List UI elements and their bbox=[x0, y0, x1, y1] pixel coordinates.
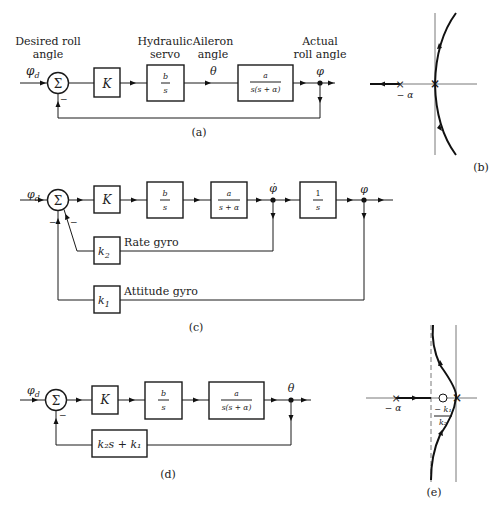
arrow-icon bbox=[271, 213, 276, 219]
caption-a: (a) bbox=[191, 126, 206, 139]
output-symbol: φ bbox=[316, 65, 324, 78]
caption-e: (e) bbox=[426, 486, 441, 499]
sum-sign: − bbox=[60, 94, 68, 104]
attitude-gyro-label: Attitude gyro bbox=[123, 285, 198, 298]
zero-label-num: − k₁ bbox=[434, 405, 451, 414]
svg-text:a: a bbox=[234, 389, 238, 398]
output-symbol: θ bbox=[288, 382, 295, 395]
arrow-icon bbox=[40, 81, 46, 86]
caption-b: (b) bbox=[473, 161, 489, 174]
input-symbol: φd bbox=[27, 188, 40, 203]
sum-sign: − bbox=[59, 410, 67, 420]
input-label-line2: angle bbox=[33, 48, 64, 61]
pole-label: − α bbox=[385, 403, 401, 413]
sum-sign-right: − bbox=[70, 217, 78, 227]
arrow-icon bbox=[38, 198, 44, 203]
svg-text:Σ: Σ bbox=[54, 194, 62, 208]
sum-symbol: Σ bbox=[54, 77, 62, 91]
zero-icon bbox=[439, 394, 447, 402]
servo-label-line1: Hydraulic bbox=[138, 35, 193, 48]
output-symbol: φ bbox=[360, 183, 368, 196]
svg-text:s: s bbox=[161, 403, 165, 412]
arrow-icon bbox=[256, 198, 262, 203]
svg-text:b: b bbox=[163, 72, 168, 81]
svg-text:a: a bbox=[263, 71, 267, 80]
arrow-icon bbox=[193, 398, 199, 403]
diagram-b-root-locus: × − α × (b) bbox=[370, 13, 489, 174]
servo-label-line2: servo bbox=[150, 48, 181, 61]
svg-text:Σ: Σ bbox=[52, 394, 60, 408]
rate-symbol: φ̇ bbox=[269, 182, 277, 195]
arrow-icon bbox=[412, 396, 418, 401]
svg-text:s(s + α): s(s + α) bbox=[222, 403, 252, 412]
arrow-icon bbox=[347, 198, 353, 203]
arrow-icon bbox=[285, 198, 291, 203]
arrow-icon bbox=[194, 198, 200, 203]
arrow-icon bbox=[318, 97, 323, 103]
diagram-d: φd Σ − K b s a s(s + α) θ k₂s + k₁ (d) bbox=[20, 382, 311, 481]
svg-text:s: s bbox=[163, 203, 167, 212]
svg-text:b: b bbox=[161, 389, 166, 398]
arrow-icon bbox=[77, 198, 83, 203]
arrow-icon bbox=[205, 81, 211, 86]
output-label-line2: roll angle bbox=[293, 48, 346, 61]
svg-text:1: 1 bbox=[315, 189, 320, 198]
aileron-symbol: θ bbox=[210, 65, 217, 78]
diagram-e-root-locus: × − α − k₁ k₂ × (e) bbox=[366, 325, 477, 499]
arrow-icon bbox=[379, 82, 385, 87]
rate-gyro-label: Rate gyro bbox=[124, 236, 179, 249]
arrow-icon bbox=[129, 398, 135, 403]
svg-text:s: s bbox=[316, 203, 320, 212]
input-symbol: φd bbox=[26, 64, 40, 80]
svg-text:s + α: s + α bbox=[219, 203, 239, 212]
sum-sign-left: − bbox=[49, 217, 57, 227]
output-label-line1: Actual bbox=[301, 35, 338, 48]
arrow-icon bbox=[130, 81, 136, 86]
arrow-icon bbox=[300, 81, 306, 86]
arrow-icon bbox=[378, 198, 384, 203]
svg-text:a: a bbox=[227, 189, 231, 198]
gain-label: K bbox=[102, 77, 113, 91]
input-label-line1: Desired roll bbox=[15, 35, 81, 48]
arrow-icon bbox=[301, 398, 307, 403]
arrow-icon bbox=[328, 81, 334, 86]
feedback-block-label: k₂s + k₁ bbox=[97, 438, 141, 451]
arrow-icon bbox=[271, 398, 277, 403]
aileron-label-line2: angle bbox=[198, 48, 229, 61]
block-diagram-figure: Desired roll angle φd Σ − K Hydraulic se… bbox=[0, 0, 498, 513]
svg-text:s: s bbox=[163, 86, 167, 95]
svg-text:K: K bbox=[102, 193, 113, 207]
svg-text:s(s + α): s(s + α) bbox=[251, 85, 281, 94]
pole-label: − α bbox=[397, 90, 413, 100]
diagram-a: Desired roll angle φd Σ − K Hydraulic se… bbox=[15, 35, 346, 139]
arrow-icon bbox=[54, 418, 59, 424]
aileron-label-line1: Aileron bbox=[192, 35, 233, 48]
arrow-icon bbox=[289, 415, 294, 421]
svg-text:b: b bbox=[162, 189, 167, 198]
caption-c: (c) bbox=[189, 321, 204, 334]
diagram-c: φd Σ − − K b s a s + α φ̇ 1 s bbox=[20, 182, 393, 334]
caption-d: (d) bbox=[160, 468, 176, 481]
arrow-icon bbox=[362, 213, 367, 219]
input-symbol: φd bbox=[27, 384, 40, 399]
arrow-icon bbox=[76, 398, 82, 403]
arrow-icon bbox=[131, 198, 137, 203]
svg-text:K: K bbox=[100, 393, 111, 407]
